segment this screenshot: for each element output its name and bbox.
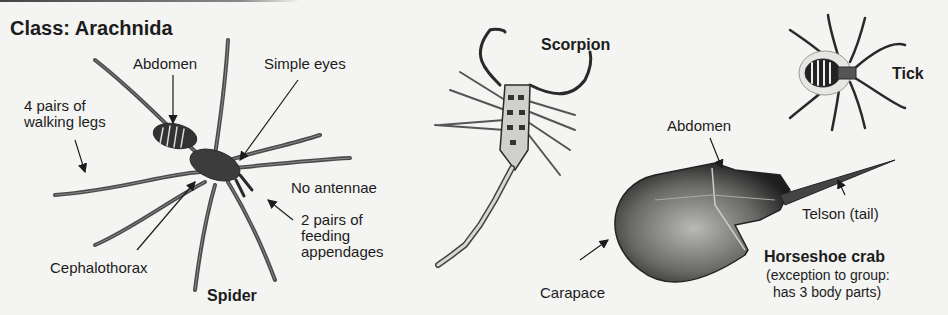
- walking-legs-label-line1: 4 pairs of: [24, 97, 86, 114]
- arachnida-diagram: Class: Arachnida Abdomen Simple eyes 4 p…: [0, 0, 948, 315]
- spider-abdomen-label: Abdomen: [133, 55, 197, 72]
- feeding-appendages-label-line3: appendages: [301, 243, 384, 260]
- spider-pointer-lines: [75, 75, 298, 250]
- tick-illustration: [790, 15, 905, 130]
- crab-abdomen-label: Abdomen: [667, 117, 731, 134]
- no-antennae-label: No antennae: [291, 179, 377, 196]
- cephalothorax-label: Cephalothorax: [50, 259, 148, 276]
- diagram-title: Class: Arachnida: [10, 20, 173, 37]
- spider-name-label: Spider: [207, 287, 257, 304]
- carapace-label: Carapace: [540, 284, 605, 301]
- horseshoe-crab-note-line1: (exception to group:: [766, 267, 890, 284]
- spider-simple-eyes-label: Simple eyes: [264, 55, 346, 72]
- scorpion-illustration: [435, 29, 591, 265]
- walking-legs-label-line2: walking legs: [24, 113, 106, 130]
- scorpion-name-label: Scorpion: [541, 36, 610, 53]
- feeding-appendages-label-line1: 2 pairs of: [301, 211, 363, 228]
- feeding-appendages-label-line2: feeding: [301, 227, 350, 244]
- horseshoe-crab-name-label: Horseshoe crab: [764, 248, 885, 265]
- telson-label: Telson (tail): [802, 205, 879, 222]
- tick-name-label: Tick: [892, 65, 924, 82]
- horseshoe-crab-note-line2: has 3 body parts): [773, 284, 881, 301]
